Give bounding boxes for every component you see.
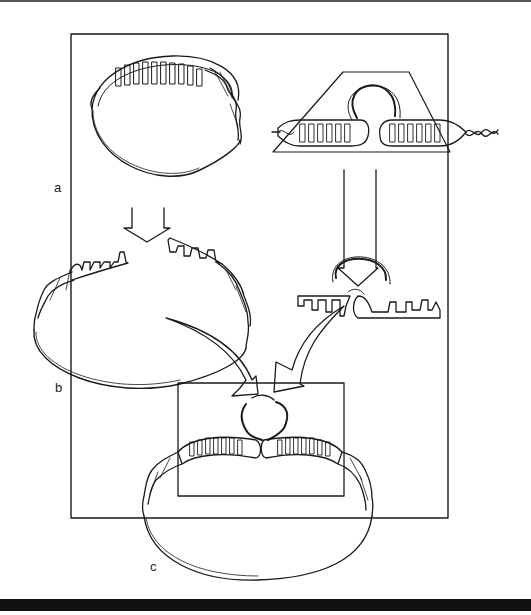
- panel-b-hairpin: [298, 257, 440, 318]
- panel-c-recombined-dna: [143, 395, 373, 580]
- panel-a-hairpin-duplex: [272, 72, 498, 152]
- panel-label-b: b: [55, 380, 62, 395]
- diagram-figure: a b c: [0, 0, 531, 615]
- bottom-bar: [0, 599, 531, 611]
- arrow-down-right: [338, 170, 378, 286]
- panel-label-a: a: [54, 180, 61, 195]
- arrow-curved-right: [274, 306, 344, 392]
- panel-b-opened-dna: [34, 238, 251, 388]
- arrow-down-left: [124, 208, 170, 242]
- panel-a-circular-dna: [91, 56, 241, 176]
- panel-label-c: c: [150, 559, 157, 574]
- diagram-canvas: [0, 0, 531, 615]
